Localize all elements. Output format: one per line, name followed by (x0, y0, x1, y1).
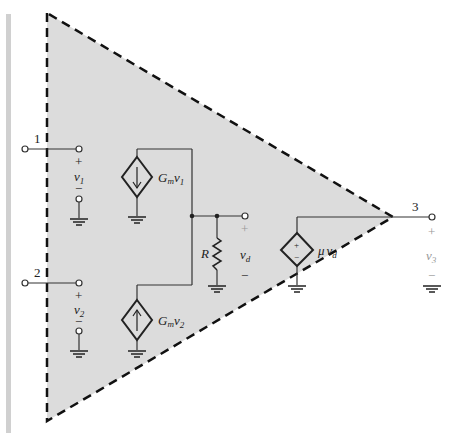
v3-label: v3 (426, 248, 437, 265)
vd-minus: − (241, 268, 248, 283)
node-1-label: 1 (34, 131, 41, 146)
terminal-1 (22, 146, 28, 152)
source-plus: + (294, 240, 299, 250)
v1-plus: + (75, 154, 82, 169)
v2-minus: − (75, 314, 82, 329)
source-minus: − (294, 252, 299, 262)
node-3-label: 3 (412, 199, 419, 214)
resistor-label: R (200, 246, 209, 261)
v3-minus: − (428, 268, 435, 283)
terminal-2 (22, 280, 28, 286)
circuit-diagram: 1 2 3 + v1 − + v2 − Gmv1 Gmv2 R + vd − +… (0, 0, 450, 433)
v3-plus: + (428, 224, 435, 239)
v2-plus: + (75, 288, 82, 303)
v1-minus: − (75, 181, 82, 196)
page-margin-bar (6, 14, 11, 433)
node-2-label: 2 (34, 265, 41, 280)
vd-plus: + (241, 221, 248, 236)
terminal-3 (429, 214, 435, 220)
